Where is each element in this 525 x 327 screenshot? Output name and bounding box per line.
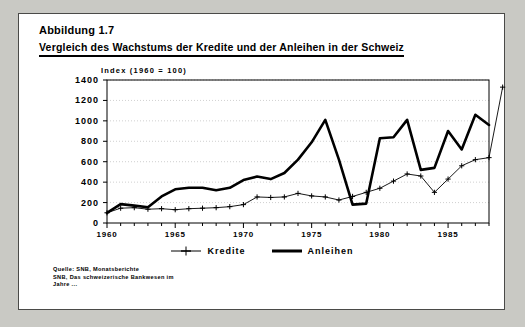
y-axis-tick-label: 800 [59, 136, 99, 146]
y-axis-tick-label: 600 [59, 157, 99, 167]
y-axis-tick-label: 400 [59, 177, 99, 187]
source-line-2: SNB, Das schweizerische Bankwesen im [53, 274, 174, 282]
x-axis-tick-label: 1960 [97, 230, 118, 239]
y-axis-tick-label: 200 [59, 198, 99, 208]
x-axis-tick-label: 1965 [165, 230, 186, 239]
y-axis-tick-label: 0 [59, 218, 99, 228]
source-line-1: Quelle: SNB, Monatsberichte [53, 266, 174, 274]
chart-legend: Kredite Anleihen [19, 246, 506, 256]
x-axis-tick-label: 1970 [233, 230, 254, 239]
x-axis-tick-label: 1985 [438, 230, 459, 239]
legend-label-anleihen: Anleihen [308, 246, 354, 256]
source-line-3: Jahre ... [53, 281, 174, 289]
x-axis-tick-label: 1980 [369, 230, 390, 239]
anleihen-line-swatch-icon [272, 246, 302, 256]
legend-item-kredite: Kredite [171, 246, 245, 256]
legend-label-kredite: Kredite [207, 246, 245, 256]
kredite-line-swatch-icon [171, 246, 201, 256]
source-note: Quelle: SNB, Monatsberichte SNB, Das sch… [53, 266, 174, 289]
y-axis-tick-label: 1400 [59, 75, 99, 85]
y-axis-tick-label: 1200 [59, 95, 99, 105]
y-axis-tick-label: 1000 [59, 116, 99, 126]
series-marker-plus [500, 85, 505, 90]
legend-item-anleihen: Anleihen [272, 246, 354, 256]
x-axis-tick-label: 1975 [301, 230, 322, 239]
figure-frame: Abbildung 1.7 Vergleich des Wachstums de… [18, 13, 505, 310]
